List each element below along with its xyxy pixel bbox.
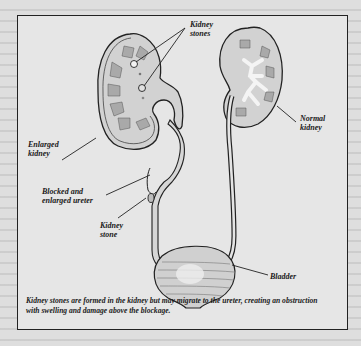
label-kidney-stone: Kidney stone	[100, 221, 123, 239]
enlarged-kidney-drawing	[98, 34, 183, 150]
label-bladder: Bladder	[270, 272, 296, 281]
urinary-tract-illustration	[0, 0, 361, 346]
label-kidney-stones: Kidney stones	[190, 20, 213, 38]
label-blocked-ureter: Blocked and enlarged ureter	[42, 187, 93, 205]
figure-caption: Kidney stones are formed in the kidney b…	[26, 296, 326, 316]
normal-kidney-drawing	[220, 27, 283, 262]
label-normal-kidney: Normal kidney	[300, 114, 325, 132]
label-enlarged-kidney: Enlarged kidney	[28, 140, 59, 158]
